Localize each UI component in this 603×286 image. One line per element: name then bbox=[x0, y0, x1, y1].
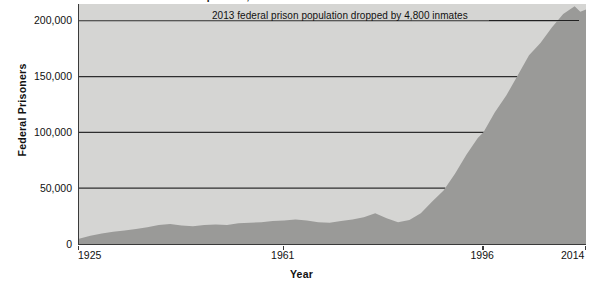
x-tick-mark bbox=[283, 246, 284, 250]
x-tick-label: 1996 bbox=[470, 249, 493, 261]
chart-figure: Federal Prison Population, 1925–2014 Fed… bbox=[0, 0, 603, 286]
plot-area bbox=[78, 4, 586, 245]
x-tick-mark bbox=[78, 246, 79, 250]
x-tick-label: 1925 bbox=[78, 249, 101, 261]
x-tick-mark bbox=[585, 246, 586, 250]
x-tick-label: 2014 bbox=[561, 249, 584, 261]
area-series-federal-prisoners bbox=[79, 6, 586, 244]
x-tick-label: 1961 bbox=[271, 249, 294, 261]
x-tick-mark bbox=[482, 246, 483, 250]
area-chart-svg bbox=[79, 4, 586, 244]
